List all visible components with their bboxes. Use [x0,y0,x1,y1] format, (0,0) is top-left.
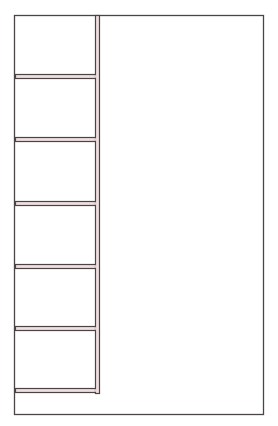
shelving-diagram [0,0,278,426]
shelf-board [16,202,98,206]
shelf-joint [95,265,97,268]
shelf-board [16,327,98,331]
shelf-joint [95,327,97,330]
shelf-board [16,75,98,79]
shelf-board [16,265,98,269]
shelf-joint [95,138,97,141]
shelf-joint [95,202,97,205]
shelf-boards [16,75,98,393]
shelf-board [16,138,98,142]
shelf-joint [95,389,97,392]
shelf-joint [95,75,97,78]
shelf-board [16,389,98,393]
